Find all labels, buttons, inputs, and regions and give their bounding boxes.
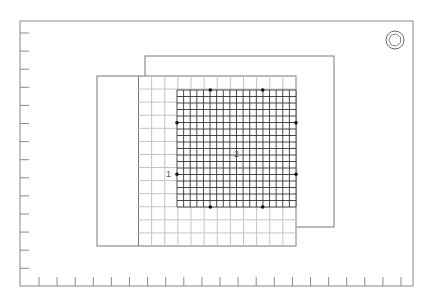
resize-handle[interactable] (261, 205, 265, 209)
resize-handle[interactable] (175, 121, 179, 125)
resize-handle[interactable] (294, 172, 298, 176)
resize-handle[interactable] (175, 172, 179, 176)
diagram-canvas: 1 2 (0, 0, 427, 298)
resize-handle[interactable] (261, 88, 265, 92)
resize-handle[interactable] (209, 88, 213, 92)
resize-handle[interactable] (209, 205, 213, 209)
rotation-orientation-icon[interactable] (386, 31, 404, 49)
region-label-1: 1 (166, 169, 171, 179)
icon-inner-polygon (389, 34, 401, 46)
resize-handle[interactable] (294, 121, 298, 125)
region-label-2: 2 (234, 149, 239, 159)
